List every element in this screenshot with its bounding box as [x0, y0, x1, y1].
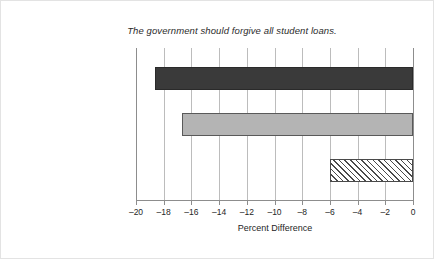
x-tick	[358, 200, 359, 205]
x-tick-label: 0	[393, 207, 433, 217]
chart-title: The government should forgive all studen…	[1, 25, 433, 36]
x-tick	[247, 200, 248, 205]
x-tick	[413, 200, 414, 205]
x-tick	[385, 200, 386, 205]
x-tick	[330, 200, 331, 205]
x-tick	[219, 200, 220, 205]
x-tick	[164, 200, 165, 205]
bar-1	[182, 113, 413, 136]
x-tick	[302, 200, 303, 205]
chart-figure: The government should forgive all studen…	[0, 0, 434, 259]
x-axis-title: Percent Difference	[136, 223, 414, 233]
bar-2	[330, 159, 413, 182]
plot-area	[136, 48, 413, 200]
gridline	[136, 48, 137, 200]
bar-0	[155, 67, 413, 90]
x-tick	[275, 200, 276, 205]
x-tick	[136, 200, 137, 205]
x-tick	[191, 200, 192, 205]
gridline	[413, 48, 414, 200]
